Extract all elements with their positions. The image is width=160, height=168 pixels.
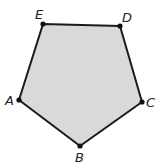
vertex-label-a: A [4,93,14,108]
vertex-label-c: C [146,95,156,110]
vertex-e-dot [40,21,45,26]
vertex-c-dot [139,99,144,104]
pentagon-diagram: A B C D E [0,0,160,168]
vertex-a-dot [16,97,21,102]
pentagon-shape [19,24,142,146]
vertex-b-dot [77,143,82,148]
vertex-label-d: D [122,10,132,25]
vertex-label-b: B [75,150,84,165]
pentagon-svg: A B C D E [0,0,160,168]
vertex-label-e: E [35,7,44,22]
